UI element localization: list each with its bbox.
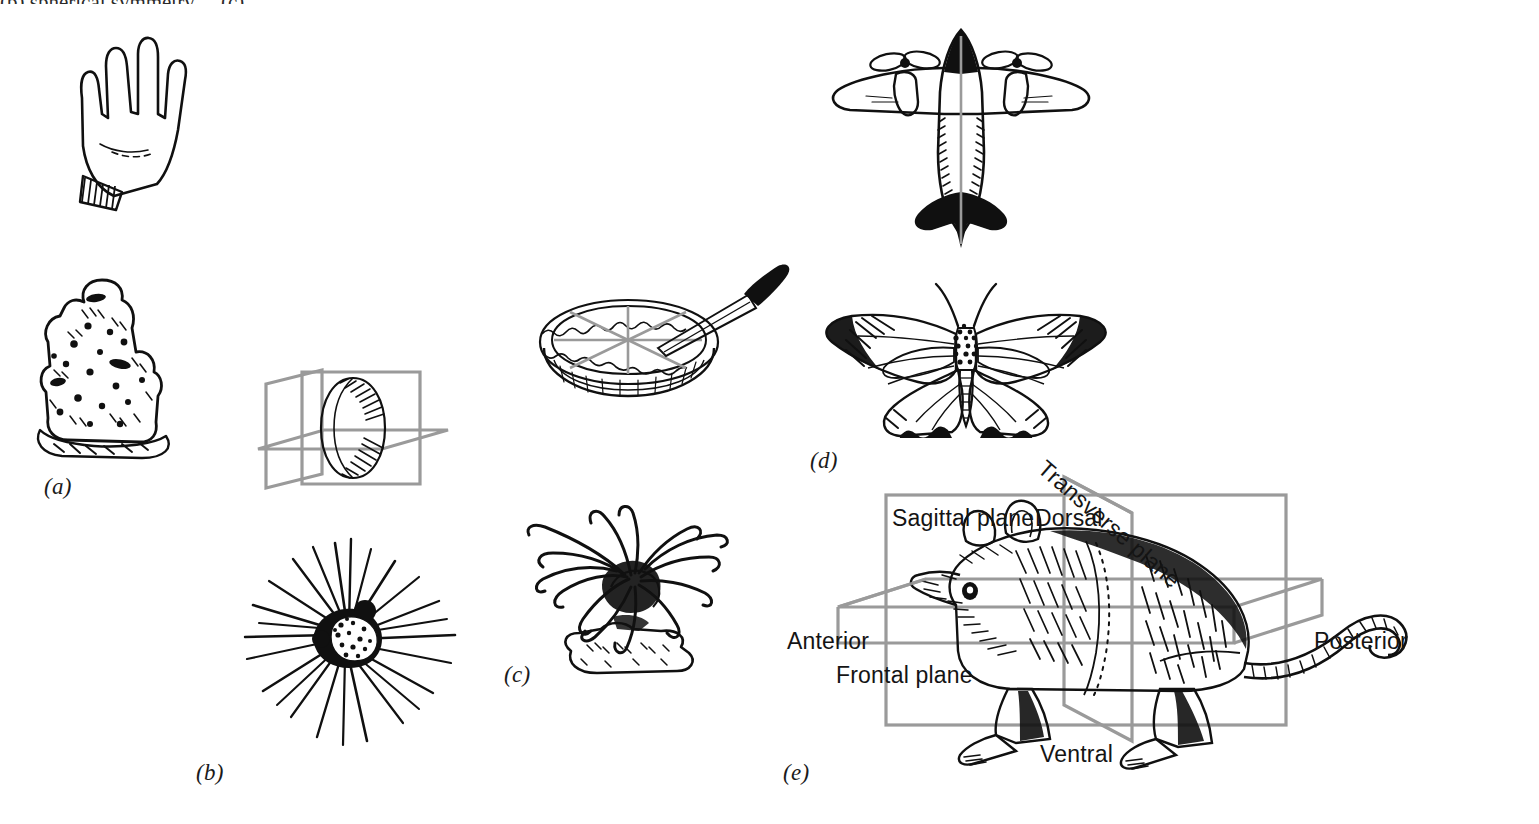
hand-illustration xyxy=(52,26,202,206)
airplane-illustration xyxy=(826,22,1096,257)
sphere-planes-illustration xyxy=(256,356,451,501)
panel-label-d: (d) xyxy=(810,448,838,474)
panel-label-b: (b) xyxy=(196,760,224,786)
panel-label-c: (c) xyxy=(504,662,530,688)
sea-anemone-illustration xyxy=(505,495,755,685)
label-ventral: Ventral xyxy=(1040,741,1113,768)
label-anterior: Anterior xyxy=(787,628,869,655)
label-posterior: Posterior xyxy=(1314,628,1408,655)
moth-illustration xyxy=(806,278,1126,453)
label-frontal-plane: Frontal plane xyxy=(836,662,973,689)
heliozoan-illustration xyxy=(243,533,458,748)
panel-label-a: (a) xyxy=(44,474,72,500)
figure-caption-partial: (b) spherical symmetry ... (c) xyxy=(0,0,1539,4)
label-sagittal-plane: Sagittal plane xyxy=(892,505,1034,532)
panel-label-e: (e) xyxy=(783,760,809,786)
mouse-planes-diagram xyxy=(860,455,1420,775)
sponge-illustration xyxy=(24,272,184,467)
pie-with-knife-illustration xyxy=(530,262,800,407)
symmetry-figure: (b) spherical symmetry ... (c) xyxy=(0,0,1539,824)
